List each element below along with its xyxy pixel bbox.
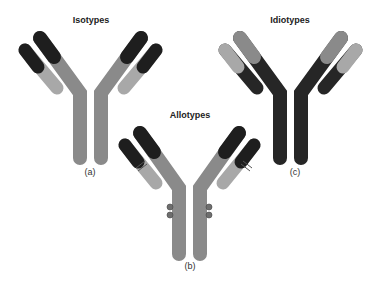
antibody-diagram [0,0,378,286]
antibody-idiotype [225,38,356,158]
antibody-isotype [25,38,156,158]
antibody-allotype [125,133,254,254]
